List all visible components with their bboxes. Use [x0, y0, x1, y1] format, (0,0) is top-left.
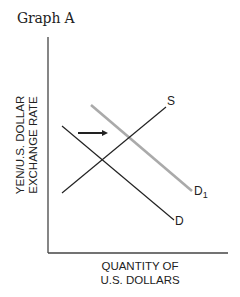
new-demand-label: D1: [194, 184, 208, 200]
demand-curve-d: [62, 126, 174, 220]
y-axis-label-line2: EXCHANGE RATE: [27, 96, 40, 194]
y-axis-label: YEN/U.S. DOLLAR EXCHANGE RATE: [14, 96, 40, 194]
supply-label: S: [167, 94, 175, 108]
new-demand-label-text: D: [194, 184, 203, 198]
x-axis-label-line1: QUANTITY OF: [100, 259, 179, 273]
x-axis-label: QUANTITY OF U.S. DOLLARS: [100, 259, 179, 287]
new-demand-curve-d1: [91, 105, 192, 191]
demand-label: D: [175, 214, 184, 228]
x-axis-label-line2: U.S. DOLLARS: [100, 273, 179, 287]
y-axis-label-line1: YEN/U.S. DOLLAR: [14, 96, 27, 194]
new-demand-label-subscript: 1: [203, 190, 208, 200]
supply-curve-s: [62, 107, 166, 193]
